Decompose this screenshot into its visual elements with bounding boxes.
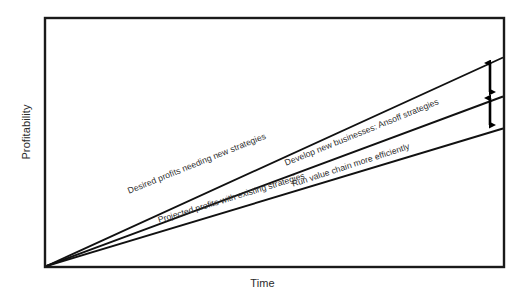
strategy-gap-chart bbox=[0, 0, 525, 300]
x-axis-label: Time bbox=[0, 277, 525, 289]
plot-frame bbox=[45, 18, 504, 267]
diagram-canvas: Desired profits needing new strategies D… bbox=[0, 0, 525, 300]
y-axis-label: Profitability bbox=[20, 82, 32, 182]
